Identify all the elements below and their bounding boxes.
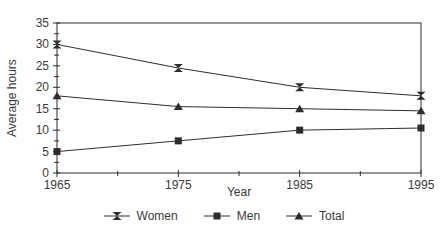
series-total xyxy=(53,92,426,115)
marker-men xyxy=(175,137,182,144)
series-line-men xyxy=(57,128,421,152)
series-line-total xyxy=(57,96,421,111)
y-tick-label: 30 xyxy=(36,37,50,51)
marker-men xyxy=(418,125,425,132)
legend-marker-men xyxy=(213,213,220,220)
men-series-marker-icon xyxy=(204,211,230,221)
series-women xyxy=(53,40,426,99)
legend-label-women: Women xyxy=(137,210,178,222)
y-tick-label: 20 xyxy=(36,80,50,94)
x-axis-title: Year xyxy=(57,185,421,199)
women-series-marker-icon xyxy=(104,211,130,221)
legend-item-women: Women xyxy=(104,210,178,222)
legend-label-men: Men xyxy=(237,210,260,222)
y-tick-label: 10 xyxy=(36,123,50,137)
series-men xyxy=(54,125,425,156)
y-tick-label: 15 xyxy=(36,102,50,116)
series-line-women xyxy=(57,44,421,95)
legend-label-total: Total xyxy=(319,210,344,222)
total-series-marker-icon xyxy=(286,211,312,221)
y-tick-label: 25 xyxy=(36,59,50,73)
legend-item-total: Total xyxy=(286,210,344,222)
legend: Women Men Total xyxy=(0,207,448,225)
line-chart-figure: 051015202530351965197519851995 Average h… xyxy=(0,0,448,233)
y-axis-title: Average hours xyxy=(5,23,21,173)
y-tick-label: 5 xyxy=(42,145,49,159)
marker-men xyxy=(54,148,61,155)
marker-total xyxy=(53,92,62,100)
legend-item-men: Men xyxy=(204,210,260,222)
marker-men xyxy=(296,127,303,134)
y-tick-label: 35 xyxy=(36,16,50,30)
axis-frame xyxy=(57,23,421,173)
